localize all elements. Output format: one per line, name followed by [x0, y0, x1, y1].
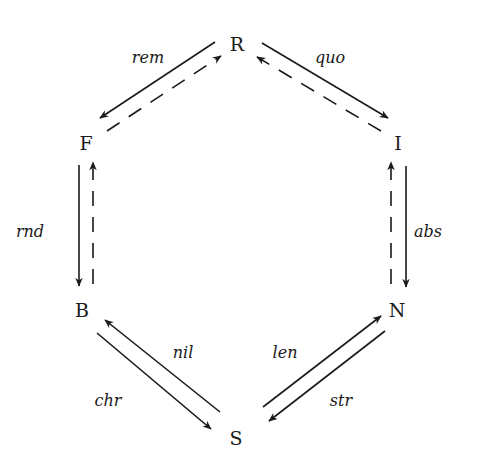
arrow-s-to-b — [105, 320, 220, 412]
node-f: F — [79, 132, 92, 154]
edge-labels-layer: remquorndabsnillenchrstr — [16, 48, 442, 410]
edge-label-chr: chr — [95, 391, 123, 410]
edges-layer — [79, 42, 406, 429]
arrow-f-to-r-dashed — [107, 56, 221, 131]
node-s: S — [229, 427, 242, 449]
edge-label-abs: abs — [414, 222, 442, 241]
edge-label-nil: nil — [173, 343, 194, 362]
node-b: B — [75, 299, 89, 321]
node-r: R — [230, 33, 245, 55]
hexagon-diagram: RINSBF remquorndabsnillenchrstr — [0, 0, 484, 463]
edge-label-len: len — [273, 343, 298, 362]
arrow-s-to-n — [263, 316, 381, 407]
edge-label-str: str — [330, 391, 354, 410]
arrow-b-to-s — [97, 333, 211, 429]
node-n: N — [389, 299, 406, 321]
arrow-i-to-r-dashed — [257, 57, 381, 131]
edge-label-rnd: rnd — [16, 222, 44, 241]
edge-label-quo: quo — [315, 48, 345, 67]
edge-label-rem: rem — [132, 48, 164, 67]
nodes-layer: RINSBF — [75, 33, 405, 449]
node-i: I — [394, 132, 402, 154]
